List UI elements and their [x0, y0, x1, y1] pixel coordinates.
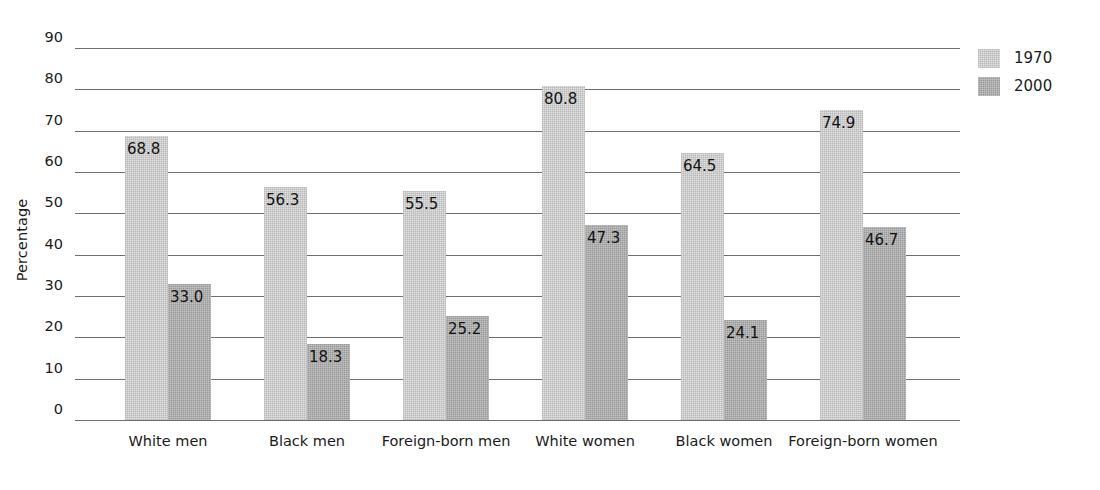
- bar-1970[interactable]: 74.9: [820, 110, 863, 420]
- bar-group: 56.318.3: [264, 48, 350, 420]
- bar-2000[interactable]: 33.0: [168, 284, 211, 420]
- bar-value-label: 64.5: [683, 159, 716, 174]
- bar-value-label: 46.7: [865, 233, 898, 248]
- bar-value-label: 24.1: [726, 326, 759, 341]
- bar-group: 64.524.1: [681, 48, 767, 420]
- bar-2000[interactable]: 25.2: [446, 316, 489, 420]
- bar-2000[interactable]: 24.1: [724, 320, 767, 420]
- y-tick-label-60: 60: [29, 153, 63, 169]
- bar-1970[interactable]: 56.3: [264, 187, 307, 420]
- y-tick-label-50: 50: [29, 194, 63, 210]
- bar-value-label: 56.3: [266, 193, 299, 208]
- y-tick-label-70: 70: [29, 112, 63, 128]
- bar-value-label: 74.9: [822, 116, 855, 131]
- y-tick-label-10: 10: [29, 360, 63, 376]
- bar-group: 55.525.2: [403, 48, 489, 420]
- bar-1970[interactable]: 64.5: [681, 153, 724, 420]
- legend-item-2000[interactable]: 2000: [978, 72, 1088, 100]
- bar-value-label: 55.5: [405, 197, 438, 212]
- legend-swatch-2000: [978, 77, 1000, 96]
- y-tick-label-80: 80: [29, 70, 63, 86]
- bar-group: 68.833.0: [125, 48, 211, 420]
- bar-value-label: 25.2: [448, 322, 481, 337]
- bar-group: 74.946.7: [820, 48, 906, 420]
- bar-chart: Percentage 908070605040302010068.833.056…: [0, 0, 1100, 490]
- bar-value-label: 80.8: [544, 92, 577, 107]
- bar-1970[interactable]: 55.5: [403, 191, 446, 420]
- legend-item-1970[interactable]: 1970: [978, 44, 1088, 72]
- chart-legend: 19702000: [978, 44, 1088, 100]
- bar-group: 80.847.3: [542, 48, 628, 420]
- bar-value-label: 33.0: [170, 290, 203, 305]
- bar-2000[interactable]: 18.3: [307, 344, 350, 420]
- bar-1970[interactable]: 68.8: [125, 136, 168, 420]
- y-tick-label-0: 0: [29, 401, 63, 417]
- y-tick-label-90: 90: [29, 29, 63, 45]
- bar-value-label: 47.3: [587, 231, 620, 246]
- y-tick-label-40: 40: [29, 236, 63, 252]
- bar-value-label: 18.3: [309, 350, 342, 365]
- legend-label: 1970: [1014, 49, 1052, 67]
- x-axis-label: Foreign-born women: [778, 432, 948, 451]
- y-tick-label-20: 20: [29, 318, 63, 334]
- gridline-0: [75, 420, 960, 421]
- y-tick-label-30: 30: [29, 277, 63, 293]
- bar-2000[interactable]: 46.7: [863, 227, 906, 420]
- legend-swatch-1970: [978, 49, 1000, 68]
- bar-value-label: 68.8: [127, 142, 160, 157]
- bar-1970[interactable]: 80.8: [542, 86, 585, 420]
- plot-area: 908070605040302010068.833.056.318.355.52…: [75, 48, 960, 420]
- legend-label: 2000: [1014, 77, 1052, 95]
- bar-2000[interactable]: 47.3: [585, 225, 628, 421]
